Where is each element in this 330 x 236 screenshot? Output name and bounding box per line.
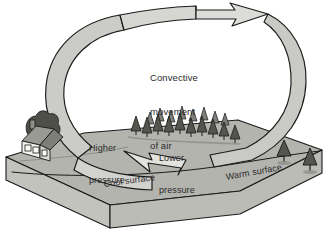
label-lower-pressure: Lower pressure bbox=[159, 132, 195, 217]
label-convective-line2: movement bbox=[150, 106, 198, 117]
house-window-left bbox=[25, 145, 31, 151]
diagram-canvas: Convective movement of air Higher pressu… bbox=[0, 0, 330, 236]
label-higher-line1: Higher bbox=[89, 143, 125, 154]
label-lower-line1: Lower bbox=[159, 153, 195, 164]
loop-top-segment bbox=[120, 6, 196, 30]
house-window-right bbox=[33, 147, 39, 153]
label-higher-pressure: Higher pressure bbox=[89, 122, 125, 207]
arrowhead-left-icon bbox=[196, 3, 268, 26]
house-window-side bbox=[42, 150, 47, 156]
label-convective-line1: Convective bbox=[150, 72, 198, 83]
label-lower-line2: pressure bbox=[159, 185, 195, 196]
